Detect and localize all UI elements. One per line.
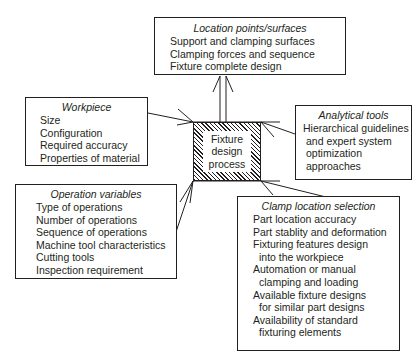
clamp-item: clamping and loading: [253, 276, 399, 289]
clamp-location-box: Clamp location selection Part location a…: [237, 196, 400, 351]
analytical-tools-box: Analytical tools Hierarchical guidelines…: [295, 105, 412, 180]
operation-item: Cutting tools: [36, 251, 176, 264]
clamp-title: Clamp location selection: [238, 200, 399, 213]
location-item: Support and clamping surfaces: [170, 35, 345, 48]
clamp-item: Automation or manual: [253, 263, 399, 276]
analytical-title: Analytical tools: [296, 109, 411, 122]
location-box: Location points/surfaces Support and cla…: [154, 17, 346, 75]
clamp-item: Part stablity and deformation: [253, 226, 399, 239]
workpiece-box: Workpiece Size Configuration Required ac…: [25, 97, 148, 166]
clamp-item: Availability of standard: [253, 314, 399, 327]
operation-variables-box: Operation variables Type of operations N…: [15, 184, 177, 279]
clamp-item: Part location accuracy: [253, 213, 399, 226]
operation-item: Number of operations: [36, 214, 176, 227]
clamp-item: Fixturing features design: [253, 238, 399, 251]
clamp-item: into the workpiece: [253, 251, 399, 264]
operation-item: Machine tool characteristics: [36, 239, 176, 252]
location-item: Fixture complete design: [170, 60, 345, 73]
operation-item: Inspection requirement: [36, 264, 176, 277]
clamp-item: for similar part designs: [253, 301, 399, 314]
operation-title: Operation variables: [16, 188, 176, 201]
workpiece-item: Size: [40, 114, 147, 127]
center-line: Fixture: [211, 133, 243, 146]
analytical-item: Hierarchical guidelines: [303, 122, 411, 135]
clamp-item: Available fixture designs: [253, 289, 399, 302]
workpiece-item: Configuration: [40, 127, 147, 140]
fixture-design-process-box: Fixture design process: [193, 122, 261, 181]
location-item: Clamping forces and sequence: [170, 48, 345, 61]
analytical-item: approaches: [303, 160, 411, 173]
location-title: Location points/surfaces: [155, 22, 345, 35]
workpiece-item: Required accuracy: [40, 139, 147, 152]
workpiece-item: Properties of material: [40, 152, 147, 165]
clamp-item: fixturing elements: [253, 326, 399, 339]
operation-item: Type of operations: [36, 201, 176, 214]
center-line: process: [209, 158, 246, 171]
analytical-item: and expert system: [303, 135, 411, 148]
center-line: design: [212, 145, 243, 158]
operation-item: Sequence of operations: [36, 226, 176, 239]
analytical-item: optimization: [303, 147, 411, 160]
workpiece-title: Workpiece: [26, 101, 147, 114]
